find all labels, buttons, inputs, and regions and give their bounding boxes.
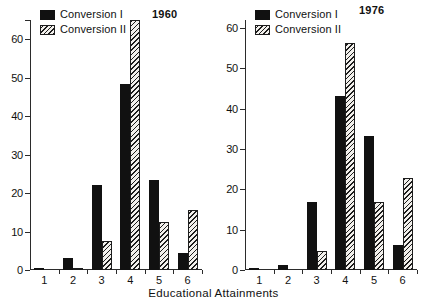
y-axis-tick-label: 10 — [226, 224, 238, 235]
y-axis-tick — [240, 230, 245, 231]
y-axis-tick — [25, 78, 30, 79]
y-axis-line — [30, 20, 31, 270]
y-axis-tick-label: 40 — [11, 111, 23, 122]
bar-conversion-ii-cat-3 — [102, 241, 112, 270]
bar-conversion-ii-cat-5 — [159, 222, 169, 270]
x-axis-tick-label: 3 — [314, 275, 320, 286]
legend-entry-conversion-i: Conversion I — [40, 8, 126, 21]
y-axis-tick — [25, 39, 30, 40]
legend-label-conversion-ii: Conversion II — [60, 24, 126, 35]
y-axis-tick-label: 50 — [226, 63, 238, 74]
x-axis-tick-label: 4 — [342, 275, 348, 286]
legend-swatch-hatched-icon — [40, 25, 55, 35]
bar-conversion-i-cat-2 — [63, 258, 73, 270]
bar-conversion-ii-cat-4 — [345, 43, 355, 270]
x-axis-tick — [331, 270, 332, 274]
bar-conversion-ii-cat-4 — [130, 20, 140, 270]
legend-swatch-solid-icon — [40, 10, 55, 20]
y-axis-tick — [240, 149, 245, 150]
x-axis-tick-label: 1 — [41, 275, 47, 286]
plot-area-1960: 0102030405060123456 — [30, 20, 202, 270]
x-axis-tick-label: 4 — [127, 275, 133, 286]
bar-conversion-i-cat-6 — [178, 253, 188, 270]
y-axis-tick — [240, 68, 245, 69]
legend-label-conversion-i: Conversion I — [275, 9, 338, 20]
legend-1976: Conversion I Conversion II — [255, 8, 341, 38]
chart-panel-1960: 0102030405060123456 Conversion I Convers… — [0, 0, 214, 301]
x-axis-title: Educational Attainments — [0, 287, 427, 299]
bar-conversion-ii-cat-5 — [374, 202, 384, 270]
x-axis-tick — [87, 270, 88, 274]
y-axis-tick — [25, 155, 30, 156]
x-axis-tick-label: 6 — [185, 275, 191, 286]
y-axis-tick — [240, 28, 245, 29]
y-axis-tick-label: 20 — [226, 184, 238, 195]
x-axis-tick — [202, 270, 203, 274]
bar-conversion-i-cat-2 — [278, 265, 288, 270]
legend-swatch-hatched-icon — [255, 25, 270, 35]
legend-swatch-solid-icon — [255, 10, 270, 20]
x-axis-tick-label: 6 — [400, 275, 406, 286]
y-axis-tick — [25, 116, 30, 117]
x-axis-tick-label: 5 — [156, 275, 162, 286]
x-axis-tick-label: 1 — [256, 275, 262, 286]
y-axis-tick — [25, 193, 30, 194]
x-axis-tick — [59, 270, 60, 274]
y-axis-tick-label: 30 — [226, 144, 238, 155]
x-axis-tick — [173, 270, 174, 274]
x-axis-tick-label: 2 — [285, 275, 291, 286]
dual-bar-chart-figure: 0102030405060123456 Conversion I Convers… — [0, 0, 427, 301]
y-axis-tick-label: 60 — [226, 23, 238, 34]
y-axis-tick — [25, 232, 30, 233]
x-axis-tick — [116, 270, 117, 274]
x-axis-tick — [274, 270, 275, 274]
bar-conversion-i-cat-4 — [120, 84, 130, 270]
y-axis-tick-label: 0 — [17, 265, 23, 276]
x-axis-tick-label: 5 — [371, 275, 377, 286]
bar-conversion-i-cat-3 — [307, 202, 317, 270]
y-axis-tick — [25, 270, 30, 271]
x-axis-tick-label: 3 — [99, 275, 105, 286]
legend-entry-conversion-ii: Conversion II — [255, 23, 341, 36]
y-axis-line — [245, 20, 246, 270]
legend-label-conversion-i: Conversion I — [60, 9, 123, 20]
x-axis-tick — [360, 270, 361, 274]
y-axis-tick-label: 10 — [11, 226, 23, 237]
y-axis-tick-label: 60 — [11, 34, 23, 45]
bar-conversion-i-cat-5 — [364, 136, 374, 270]
y-axis-tick — [240, 189, 245, 190]
legend-1960: Conversion I Conversion II — [40, 8, 126, 38]
bar-conversion-ii-cat-6 — [188, 210, 198, 270]
y-axis-tick-label: 20 — [11, 188, 23, 199]
y-axis-tick — [240, 109, 245, 110]
bar-conversion-ii-cat-2 — [73, 268, 83, 270]
legend-entry-conversion-ii: Conversion II — [40, 23, 126, 36]
bar-conversion-ii-cat-3 — [317, 251, 327, 270]
legend-label-conversion-ii: Conversion II — [275, 24, 341, 35]
bar-conversion-i-cat-5 — [149, 180, 159, 270]
y-axis-tick-label: 30 — [11, 149, 23, 160]
x-axis-tick — [145, 270, 146, 274]
x-axis-tick — [388, 270, 389, 274]
bar-conversion-i-cat-3 — [92, 185, 102, 270]
x-axis-tick-label: 2 — [70, 275, 76, 286]
bar-conversion-ii-cat-6 — [403, 178, 413, 270]
y-axis-tick-label: 50 — [11, 72, 23, 83]
plot-area-1976: 0102030405060123456 — [245, 20, 417, 270]
x-axis-tick — [417, 270, 418, 274]
bar-conversion-i-cat-6 — [393, 245, 403, 270]
y-axis-tick-label: 40 — [226, 103, 238, 114]
legend-entry-conversion-i: Conversion I — [255, 8, 341, 21]
x-axis-tick — [302, 270, 303, 274]
bar-conversion-i-cat-1 — [249, 268, 259, 270]
y-axis-tick-label: 0 — [232, 265, 238, 276]
y-axis-tick — [25, 20, 30, 21]
bar-conversion-i-cat-4 — [335, 96, 345, 270]
y-axis-tick — [240, 270, 245, 271]
chart-panel-1976: 0102030405060123456 Conversion I Convers… — [213, 0, 427, 301]
bar-conversion-i-cat-1 — [34, 268, 44, 270]
panel-year-label-1960: 1960 — [152, 8, 177, 20]
panel-year-label-1976: 1976 — [359, 4, 384, 16]
